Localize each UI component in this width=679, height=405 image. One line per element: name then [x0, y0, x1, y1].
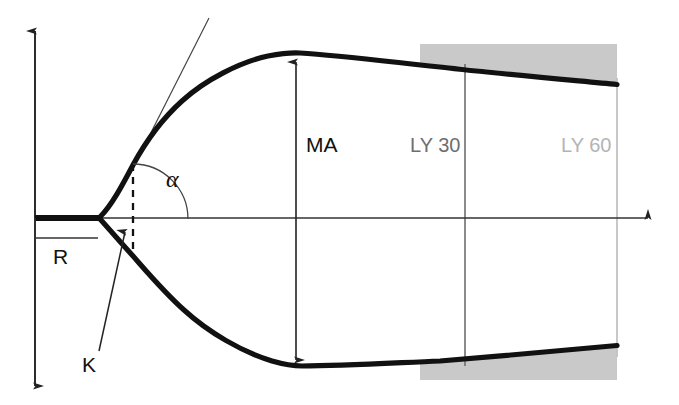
alpha-angle-arc	[133, 164, 188, 219]
ma-label: MA	[306, 133, 338, 156]
r-time-measure	[35, 218, 98, 240]
teg-trace	[35, 53, 617, 366]
lysis-marker-lines	[465, 64, 617, 366]
teg-diagram-canvas: R K α MA LY 30 LY 60	[0, 0, 679, 405]
upper-lysis-shade	[420, 44, 617, 84]
lower-curve	[100, 219, 617, 366]
ly30-label: LY 30	[410, 134, 460, 156]
k-time-label: K	[82, 353, 96, 376]
ly60-label: LY 60	[561, 134, 611, 156]
k-time-pointer	[99, 232, 125, 351]
axes	[35, 31, 648, 386]
k-pointer-line	[99, 232, 125, 351]
teg-diagram: R K α MA LY 30 LY 60	[0, 0, 679, 405]
upper-curve	[100, 53, 617, 217]
alpha-angle-group	[133, 164, 188, 256]
r-time-label: R	[53, 245, 68, 268]
alpha-angle-label: α	[166, 166, 179, 192]
lysis-shaded-regions	[420, 44, 617, 380]
